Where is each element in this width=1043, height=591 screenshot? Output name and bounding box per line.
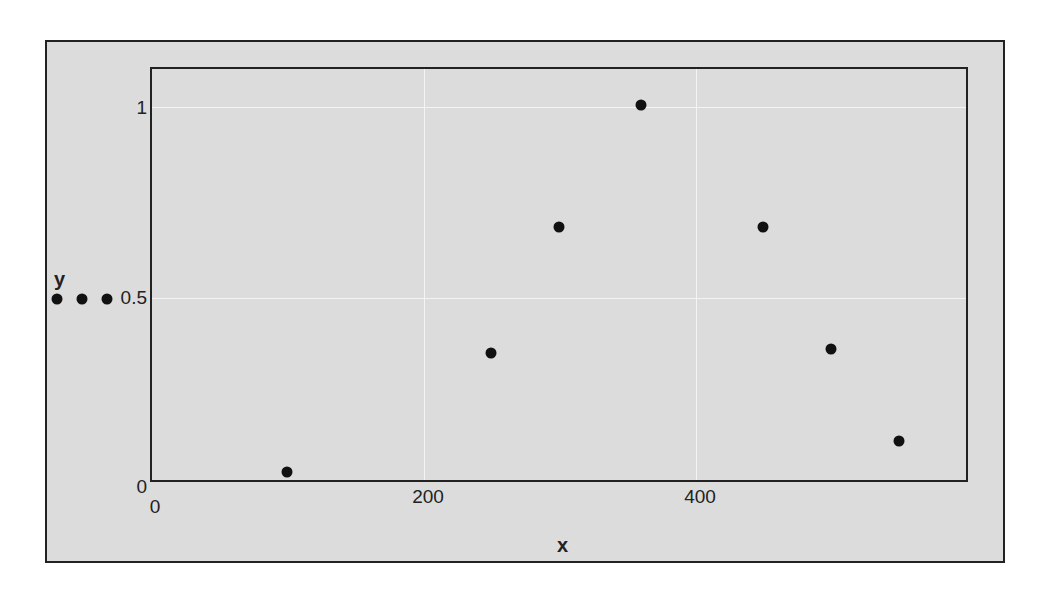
- y-tick-0: 0: [136, 476, 147, 498]
- gridline-x-400: [696, 69, 697, 480]
- gridline-x-200: [424, 69, 425, 480]
- data-point: [826, 344, 837, 355]
- x-tick-400: 400: [684, 486, 716, 508]
- data-point: [282, 466, 293, 477]
- y-label-dot-2: [77, 294, 88, 305]
- y-label-dot-1: [52, 294, 63, 305]
- data-point: [894, 436, 905, 447]
- y-label-dot-3: [102, 294, 113, 305]
- gridline-y-1: [152, 107, 966, 108]
- gridline-y-0.5: [152, 298, 966, 299]
- x-tick-0: 0: [150, 496, 161, 518]
- y-axis-label: y: [54, 268, 65, 291]
- data-point: [758, 222, 769, 233]
- x-axis-label: x: [557, 534, 568, 557]
- data-point: [554, 222, 565, 233]
- data-point: [635, 100, 646, 111]
- data-point: [486, 348, 497, 359]
- y-tick-0.5: 0.5: [121, 287, 147, 309]
- y-tick-1: 1: [136, 97, 147, 119]
- plot-area: [150, 67, 968, 482]
- x-tick-200: 200: [412, 486, 444, 508]
